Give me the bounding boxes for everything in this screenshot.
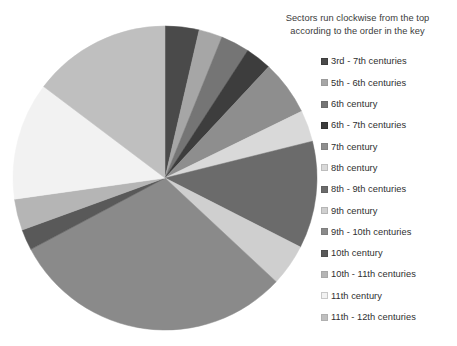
legend-color-swatch — [321, 101, 328, 108]
legend-item: 8th century — [321, 157, 457, 178]
chart-caption: Sectors run clockwise from the top accor… — [258, 12, 457, 39]
legend-item-label: 11th century — [331, 291, 382, 301]
legend-item: 10th century — [321, 242, 457, 263]
legend-color-swatch — [321, 207, 328, 214]
legend-item: 11th century — [321, 285, 457, 306]
pie-chart-figure: Sectors run clockwise from the top accor… — [0, 0, 457, 346]
legend-item: 11th - 12th centuries — [321, 306, 457, 327]
legend-item-label: 8th century — [331, 163, 377, 173]
legend-item-label: 10th - 11th centuries — [331, 269, 416, 279]
legend-color-swatch — [321, 164, 328, 171]
legend-color-swatch — [321, 122, 328, 129]
legend-item: 9th century — [321, 200, 457, 221]
legend-color-swatch — [321, 58, 328, 65]
legend-item-label: 3rd - 7th centuries — [331, 56, 407, 66]
legend-panel: Sectors run clockwise from the top accor… — [258, 12, 457, 328]
legend-item-label: 9th century — [331, 206, 377, 216]
legend-color-swatch — [321, 186, 328, 193]
legend-item: 3rd - 7th centuries — [321, 51, 457, 72]
legend-color-swatch — [321, 79, 328, 86]
legend-item-label: 9th - 10th centuries — [331, 227, 411, 237]
legend-color-swatch — [321, 228, 328, 235]
legend-item: 5th - 6th centuries — [321, 72, 457, 93]
caption-line-2: according to the order in the key — [260, 25, 455, 38]
legend-item: 10th - 11th centuries — [321, 264, 457, 285]
legend-color-swatch — [321, 250, 328, 257]
legend-item: 9th - 10th centuries — [321, 221, 457, 242]
legend-color-swatch — [321, 314, 328, 321]
legend-item: 6th - 7th centuries — [321, 115, 457, 136]
legend-item-label: 6th - 7th centuries — [331, 120, 406, 130]
legend-item-label: 10th century — [331, 248, 383, 258]
legend-item-label: 8th - 9th centuries — [331, 184, 406, 194]
legend-color-swatch — [321, 292, 328, 299]
legend-item-label: 6th century — [331, 99, 377, 109]
legend-item: 7th century — [321, 136, 457, 157]
caption-line-1: Sectors run clockwise from the top — [260, 12, 455, 25]
legend-item-label: 7th century — [331, 142, 377, 152]
legend-list: 3rd - 7th centuries5th - 6th centuries6t… — [258, 51, 457, 328]
legend-color-swatch — [321, 143, 328, 150]
legend-item: 6th century — [321, 93, 457, 114]
legend-item-label: 11th - 12th centuries — [331, 312, 416, 322]
legend-item-label: 5th - 6th centuries — [331, 78, 406, 88]
legend-color-swatch — [321, 271, 328, 278]
legend-item: 8th - 9th centuries — [321, 179, 457, 200]
